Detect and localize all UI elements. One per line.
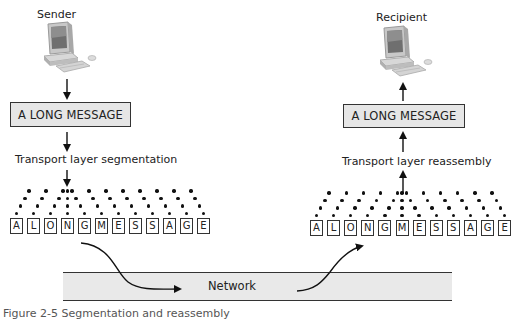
arrow-into-network (81, 243, 180, 289)
arrow-out-of-network (297, 246, 362, 291)
figure-caption: Figure 2-5 Segmentation and reassembly (3, 307, 230, 320)
